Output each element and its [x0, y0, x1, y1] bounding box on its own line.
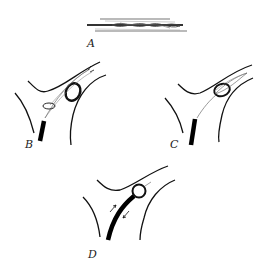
- motion-arrow-left: [110, 205, 116, 212]
- panel-c: C: [165, 65, 253, 151]
- panel-b: B: [15, 62, 106, 151]
- stretched-mesh-device: [87, 19, 187, 31]
- vessel-wall-left: [165, 98, 183, 133]
- guide-wire: [197, 95, 216, 118]
- vessel-wall-upper: [28, 62, 100, 92]
- panel-d: D: [83, 166, 175, 261]
- catheter: [40, 121, 44, 141]
- vessel-wall-upper: [97, 166, 168, 190]
- catheter-advanced: [108, 196, 134, 240]
- vessel-wall-left: [83, 197, 100, 237]
- panel-label-b: B: [24, 138, 33, 151]
- ring-captured: [133, 185, 146, 198]
- panel-label-c: C: [170, 138, 179, 151]
- panel-label-a: A: [86, 37, 95, 50]
- vessel-wall-right: [219, 78, 253, 142]
- catheter: [191, 119, 195, 145]
- snare-wire: [45, 69, 90, 118]
- ring-target: [63, 81, 83, 103]
- vessel-wall-right: [70, 75, 106, 145]
- panel-a: A: [86, 19, 187, 50]
- medical-diagram-figure: A B C D: [0, 0, 271, 276]
- snare-loop: [43, 103, 55, 109]
- motion-arrow-right: [123, 211, 129, 218]
- vessel-wall-left: [15, 93, 34, 133]
- panel-label-d: D: [87, 248, 97, 261]
